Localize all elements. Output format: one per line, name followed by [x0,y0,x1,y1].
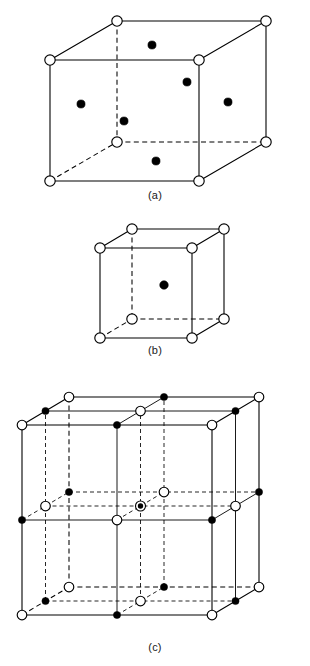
atom-open-circle [127,314,137,324]
lattice-edge [117,587,164,615]
atom-filled-dot [152,157,160,165]
atom-open-circle [95,243,105,253]
atom-filled-dot [160,393,167,400]
atom-open-circle [231,501,241,511]
atom-filled-dot [232,407,239,414]
panel-b-corner-atoms [95,224,229,343]
atom-open-circle [219,314,229,324]
atom-filled-dot [77,100,85,108]
atom-filled-dot [113,611,120,618]
atom-open-circle [207,610,217,620]
atom-open-circle [45,55,55,65]
caption-panel-a: (a) [0,189,310,201]
atom-open-circle [187,333,197,343]
atom-open-circle [254,582,264,592]
atom-filled-dot [232,597,239,604]
atom-open-circle [17,420,27,430]
caption-panel-b: (b) [0,344,310,356]
atom-open-circle [194,55,204,65]
atom-filled-dot [148,41,156,49]
atom-filled-dot [208,516,215,523]
atom-open-circle [64,582,74,592]
atom-open-circle [17,610,27,620]
atom-open-circle [64,392,74,402]
atom-filled-dot [42,597,49,604]
panel-b-visible-edges [100,229,224,338]
atom-filled-dot [183,78,191,86]
atom-concentric-core [138,503,143,508]
lattice-edge [22,397,69,425]
atom-open-circle [136,596,146,606]
panel-c-atoms [17,392,264,620]
panel-b-centre-atom [160,281,169,290]
panel-c-hidden-grid [22,397,259,615]
lattice-edge [117,397,164,425]
atom-open-circle [261,137,271,147]
caption-panel-c: (c) [0,641,310,653]
panel-c-outer-frame [22,397,259,615]
atom-concentric-circle [136,501,146,511]
panel-a-svg [0,0,310,200]
atom-filled-dot [160,281,169,290]
atom-open-circle [261,16,271,26]
lattice-edge [212,492,259,520]
lattice-edge [22,587,69,615]
lattice-edge [117,492,164,520]
atom-filled-dot [65,488,72,495]
panel-c-visible-grid [22,397,259,615]
atom-open-circle [95,333,105,343]
atom-open-circle [112,515,122,525]
atom-filled-dot [160,583,167,590]
atom-filled-dot [224,98,232,106]
atom-open-circle [127,224,137,234]
atom-open-circle [41,501,51,511]
atom-filled-dot [18,516,25,523]
atom-open-circle [254,392,264,402]
lattice-edge [212,587,259,615]
atom-open-circle [45,176,55,186]
atom-open-circle [187,243,197,253]
panel-b-hidden-edges [100,229,224,338]
lattice-edge [212,397,259,425]
atom-open-circle [112,137,122,147]
atom-filled-dot [42,407,49,414]
atom-open-circle [194,176,204,186]
lattice-edge [22,492,69,520]
atom-filled-dot [255,488,262,495]
atom-open-circle [219,224,229,234]
atom-open-circle [159,487,169,497]
panel-a-fcc [0,0,310,200]
atom-open-circle [207,420,217,430]
atom-open-circle [112,16,122,26]
atom-open-circle [136,406,146,416]
atom-filled-dot [113,421,120,428]
figure-root: (a) [0,0,310,666]
atom-filled-dot [120,117,128,125]
